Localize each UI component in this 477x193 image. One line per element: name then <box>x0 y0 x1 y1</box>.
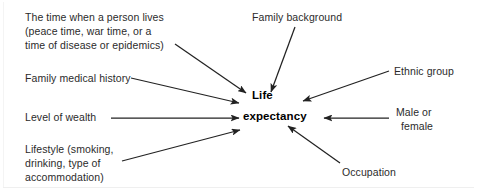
connector-family-medical-history <box>131 78 239 103</box>
factor-line: (peace time, war time, or a <box>25 25 151 37</box>
factor-label-lifestyle-line2: drinking, type of <box>25 157 101 170</box>
life-expectancy-diagram: The time when a person lives (peace time… <box>0 0 477 193</box>
connector-occupation <box>288 126 340 163</box>
factor-line: Occupation <box>342 166 396 178</box>
factor-label-family-medical-history: Family medical history <box>25 72 131 85</box>
connector-family-background <box>271 27 295 92</box>
center-node-text: expectancy <box>243 110 307 122</box>
factor-label-lifestyle: Lifestyle (smoking, <box>25 143 113 156</box>
factor-label-occupation: Occupation <box>342 166 396 179</box>
factor-line: Level of wealth <box>25 111 96 123</box>
factor-label-level-of-wealth: Level of wealth <box>25 111 96 124</box>
factor-label-family-background: Family background <box>252 11 342 24</box>
factor-label-lifestyle-line3: accommodation) <box>25 171 104 184</box>
factor-line: time of disease or epidemics) <box>25 39 164 51</box>
connector-lifestyle <box>122 130 240 161</box>
factor-line: Ethnic group <box>394 65 454 77</box>
factor-label-male-or-female: Male or <box>396 106 432 119</box>
center-node-text: Life <box>252 89 273 101</box>
connector-time-period <box>175 44 246 93</box>
connector-ethnic-group <box>303 71 389 101</box>
factor-label-male-or-female-line2: female <box>401 120 433 133</box>
factor-label-ethnic-group: Ethnic group <box>394 65 454 78</box>
factor-line: Family medical history <box>25 72 131 84</box>
factor-line: female <box>401 120 433 132</box>
factor-label-time-period-line3: time of disease or epidemics) <box>25 39 164 52</box>
factor-line: Family background <box>252 11 342 23</box>
factor-line: drinking, type of <box>25 157 101 169</box>
factor-line: The time when a person lives <box>25 11 164 23</box>
center-node-line1: Life <box>252 88 273 103</box>
center-node-line2: expectancy <box>243 109 307 124</box>
factor-line: Male or <box>396 106 432 118</box>
factor-label-time-period: The time when a person lives <box>25 11 164 24</box>
factor-line: accommodation) <box>25 171 104 183</box>
factor-line: Lifestyle (smoking, <box>25 143 113 155</box>
factor-label-time-period-line2: (peace time, war time, or a <box>25 25 151 38</box>
